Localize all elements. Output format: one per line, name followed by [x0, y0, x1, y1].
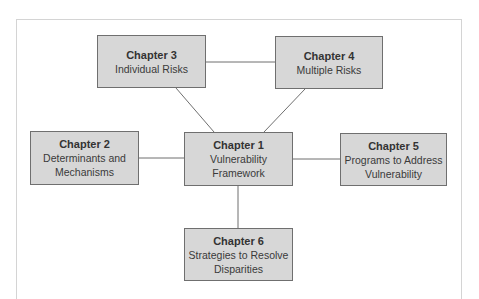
node-subtitle: Individual Risks: [115, 62, 188, 76]
node-title: Chapter 5: [368, 139, 419, 153]
node-title: Chapter 3: [126, 48, 177, 62]
node-subtitle: Programs to Address Vulnerability: [344, 153, 442, 181]
node-chapter-4: Chapter 4 Multiple Risks: [275, 36, 383, 89]
node-chapter-2: Chapter 2 Determinants and Mechanisms: [30, 131, 139, 185]
node-chapter-5: Chapter 5 Programs to Address Vulnerabil…: [340, 133, 447, 186]
node-subtitle: Multiple Risks: [297, 63, 362, 77]
node-subtitle: Strategies to Resolve Disparities: [189, 248, 289, 276]
node-subtitle: Determinants and Mechanisms: [43, 151, 126, 179]
node-subtitle: Vulnerability Framework: [210, 152, 267, 180]
node-chapter-6: Chapter 6 Strategies to Resolve Disparit…: [184, 228, 293, 281]
node-title: Chapter 2: [59, 137, 110, 151]
node-title: Chapter 4: [304, 49, 355, 63]
node-chapter-3: Chapter 3 Individual Risks: [97, 35, 206, 88]
edge-ch1-ch3: [176, 88, 214, 132]
node-title: Chapter 6: [213, 234, 264, 248]
edge-ch1-ch4: [264, 89, 305, 132]
node-chapter-1: Chapter 1 Vulnerability Framework: [184, 132, 293, 186]
node-title: Chapter 1: [213, 138, 264, 152]
